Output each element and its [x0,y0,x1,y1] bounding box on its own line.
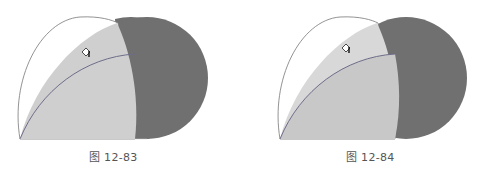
diagram-shapes [243,0,486,170]
figure-12-84: 图 12-84 [243,0,486,170]
diagram-shapes [0,0,243,170]
figure-caption: 图 12-84 [346,148,395,164]
figure-12-83: 图 12-83 [0,0,243,170]
figure-caption: 图 12-83 [89,148,138,164]
